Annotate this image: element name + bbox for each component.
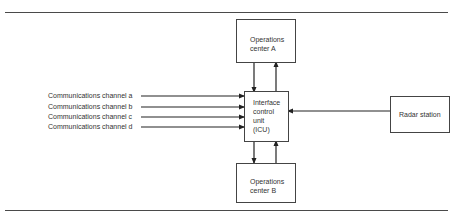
icu-line2: control [253, 107, 280, 116]
icu-line4: (ICU) [253, 125, 280, 134]
ops-b-line2: center B [250, 186, 284, 195]
ops-a-line2: center A [250, 44, 284, 53]
channel-b-label: Communications channel b [48, 102, 132, 111]
ops-b-line1: Operations [250, 177, 284, 186]
operations-center-a-box: Operations center A [236, 19, 296, 63]
operations-center-b-box: Operations center B [236, 163, 296, 203]
channel-d-label: Communications channel d [48, 122, 132, 131]
icu-line1: Interface [253, 98, 280, 107]
channel-a-label: Communications channel a [48, 91, 132, 100]
interface-control-unit-box: Interface control unit (ICU) [244, 91, 289, 142]
ops-a-line1: Operations [250, 35, 284, 44]
channel-c-label: Communications channel c [48, 112, 132, 121]
radar-station-label: Radar station [399, 110, 441, 119]
icu-line3: unit [253, 116, 280, 125]
radar-station-box: Radar station [390, 96, 450, 133]
